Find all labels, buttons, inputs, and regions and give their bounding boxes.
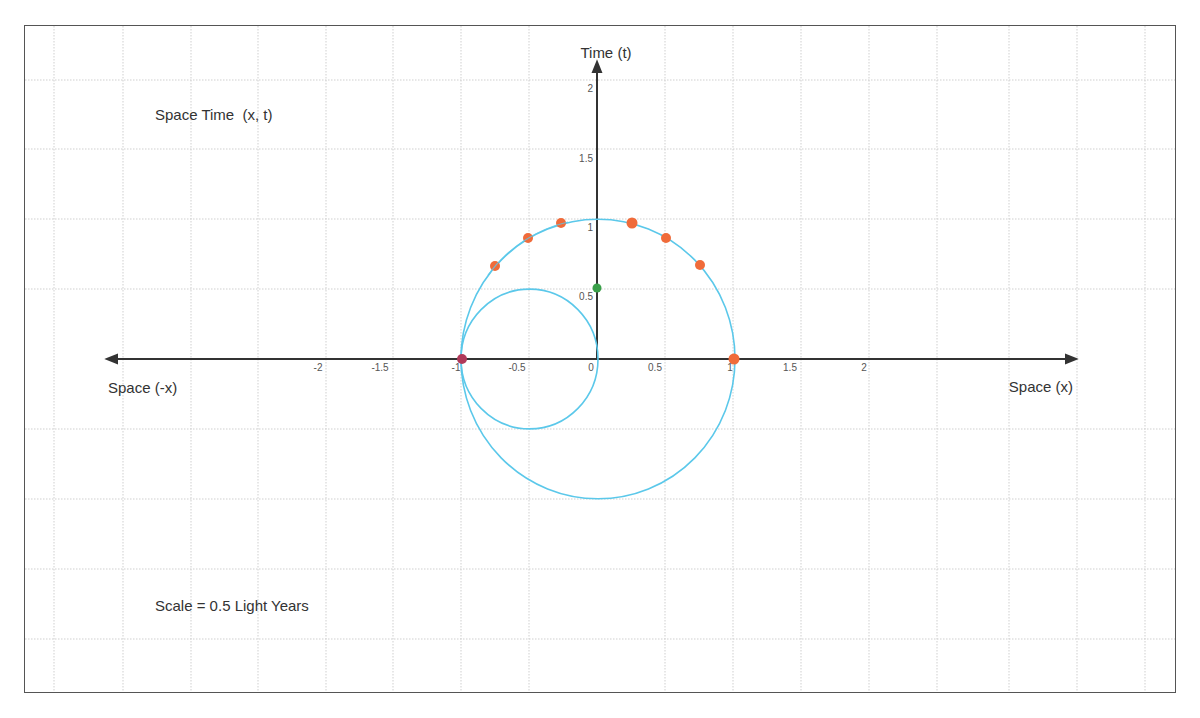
svg-text:-1: -1 [452,362,461,373]
data-points [457,218,740,365]
svg-text:-0.5: -0.5 [508,362,526,373]
x-positive-label: Space (x) [1009,378,1073,395]
point [627,218,638,229]
svg-text:0: 0 [588,362,594,373]
svg-text:0.5: 0.5 [579,291,593,302]
diagram-title: Space Time (x, t) [155,106,273,123]
svg-text:1.5: 1.5 [783,362,797,373]
point [695,260,705,270]
diagram-svg: -2 -1.5 -1 -0.5 0 0.5 1 1.5 2 0.5 1 1.5 … [0,0,1200,718]
svg-text:0.5: 0.5 [648,362,662,373]
point-green [593,284,602,293]
svg-text:1: 1 [727,362,733,373]
y-tick-labels: 0.5 1 1.5 2 [579,83,593,302]
spacetime-diagram: -2 -1.5 -1 -0.5 0 0.5 1 1.5 2 0.5 1 1.5 … [0,0,1200,718]
scale-note: Scale = 0.5 Light Years [155,597,309,614]
svg-text:-2: -2 [314,362,323,373]
svg-text:1: 1 [587,222,593,233]
x-negative-label: Space (-x) [108,379,177,396]
svg-text:1.5: 1.5 [579,153,593,164]
svg-text:-1.5: -1.5 [371,362,389,373]
point [661,233,671,243]
svg-text:2: 2 [587,83,593,94]
svg-text:2: 2 [861,362,867,373]
x-tick-labels: -2 -1.5 -1 -0.5 0 0.5 1 1.5 2 [314,362,868,373]
y-axis-label: Time (t) [580,44,631,61]
